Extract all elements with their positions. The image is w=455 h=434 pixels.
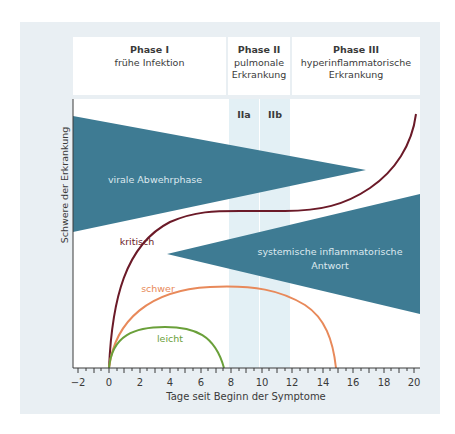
svg-text:0: 0 [106,377,112,388]
svg-text:−2: −2 [71,377,86,388]
svg-text:10: 10 [256,377,269,388]
systemic-response-label-line2: Antwort [311,260,349,271]
y-axis-label: Schwere der Erkrankung [59,127,70,244]
subphase-2b-label: IIb [268,109,282,120]
critical-label: kritisch [120,236,155,247]
systemic-response-label-line1: systemische inflammatorische [258,246,403,257]
severe-label: schwer [141,283,175,294]
mild-label: leicht [157,333,183,344]
svg-text:4: 4 [167,377,173,388]
svg-text:8: 8 [228,377,234,388]
x-axis-label: Tage seit Beginn der Symptome [165,391,326,402]
svg-text:6: 6 [198,377,204,388]
svg-text:18: 18 [378,377,391,388]
viral-defense-label: virale Abwehrphase [108,174,202,185]
svg-text:20: 20 [408,377,421,388]
svg-text:14: 14 [317,377,330,388]
subphase-2a-label: IIa [237,109,250,120]
x-tick-labels: −2 0 2 4 6 8 10 12 14 16 18 20 [71,377,421,388]
chart-plot: IIa IIb virale Abwehrphase systemische i… [0,0,455,434]
svg-text:12: 12 [286,377,299,388]
x-ticks [78,368,414,373]
svg-text:16: 16 [347,377,360,388]
svg-text:2: 2 [137,377,143,388]
